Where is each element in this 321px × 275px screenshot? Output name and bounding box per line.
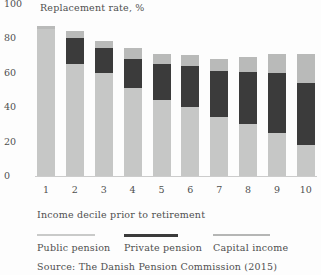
segment-public-pension bbox=[239, 124, 257, 176]
x-axis-tick-4: 4 bbox=[124, 184, 142, 195]
segment-public-pension bbox=[153, 100, 171, 176]
y-axis-tick-80: 80 bbox=[4, 32, 16, 43]
segment-public-pension bbox=[66, 64, 84, 176]
source-note: Source: The Danish Pension Commission (2… bbox=[37, 261, 277, 272]
segment-capital-income bbox=[66, 31, 84, 38]
segment-capital-income bbox=[181, 55, 199, 65]
legend-item-private-pension: Private pension bbox=[124, 234, 202, 253]
bar-decile-7 bbox=[210, 59, 228, 176]
y-axis-tick-40: 40 bbox=[4, 101, 16, 112]
x-axis-tick-9: 9 bbox=[268, 184, 286, 195]
legend-swatch-private-pension bbox=[124, 234, 178, 237]
segment-capital-income bbox=[210, 59, 228, 71]
segment-capital-income bbox=[268, 54, 286, 73]
segment-private-pension bbox=[124, 59, 142, 88]
segment-private-pension bbox=[181, 66, 199, 107]
y-axis-tick-20: 20 bbox=[4, 136, 16, 147]
x-axis-title: Income decile prior to retirement bbox=[37, 209, 205, 220]
x-axis-tick-7: 7 bbox=[210, 184, 228, 195]
x-axis-tick-8: 8 bbox=[239, 184, 257, 195]
segment-private-pension bbox=[268, 73, 286, 133]
segment-private-pension bbox=[153, 64, 171, 100]
segment-capital-income bbox=[297, 54, 315, 83]
segment-capital-income bbox=[95, 41, 113, 48]
y-axis-tick-100: 100 bbox=[4, 0, 22, 9]
segment-private-pension bbox=[210, 71, 228, 118]
x-axis-line bbox=[35, 176, 317, 177]
x-axis-tick-10: 10 bbox=[297, 184, 315, 195]
segment-public-pension bbox=[181, 107, 199, 176]
segment-private-pension bbox=[297, 83, 315, 145]
y-axis-tick-0: 0 bbox=[4, 170, 10, 181]
legend-label-capital-income: Capital income bbox=[213, 242, 288, 253]
segment-private-pension bbox=[239, 72, 257, 124]
legend-label-private-pension: Private pension bbox=[124, 242, 202, 253]
bar-group bbox=[37, 0, 315, 176]
bar-decile-10 bbox=[297, 54, 315, 176]
segment-public-pension bbox=[268, 133, 286, 176]
bar-decile-5 bbox=[153, 54, 171, 176]
bar-decile-9 bbox=[268, 54, 286, 176]
segment-capital-income bbox=[153, 54, 171, 64]
plot-area bbox=[37, 0, 315, 176]
bar-decile-8 bbox=[239, 57, 257, 176]
segment-private-pension bbox=[66, 38, 84, 64]
x-axis-tick-1: 1 bbox=[37, 184, 55, 195]
legend-item-capital-income: Capital income bbox=[213, 234, 288, 253]
x-axis-tick-6: 6 bbox=[181, 184, 199, 195]
segment-public-pension bbox=[297, 145, 315, 176]
x-axis-tick-2: 2 bbox=[66, 184, 84, 195]
segment-public-pension bbox=[95, 73, 113, 177]
segment-public-pension bbox=[124, 88, 142, 176]
y-axis-tick-60: 60 bbox=[4, 67, 16, 78]
segment-capital-income bbox=[124, 48, 142, 58]
x-axis-tick-labels: 12345678910 bbox=[37, 184, 315, 195]
segment-capital-income bbox=[239, 57, 257, 73]
legend-item-public-pension: Public pension bbox=[37, 234, 110, 253]
segment-private-pension bbox=[95, 48, 113, 72]
bar-decile-4 bbox=[124, 48, 142, 176]
segment-public-pension bbox=[37, 29, 55, 176]
bar-decile-1 bbox=[37, 26, 55, 176]
bar-decile-2 bbox=[66, 31, 84, 176]
pension-replacement-rate-figure: Replacement rate, % 020406080100 1234567… bbox=[0, 0, 321, 275]
legend-label-public-pension: Public pension bbox=[37, 242, 110, 253]
segment-public-pension bbox=[210, 117, 228, 176]
bar-decile-6 bbox=[181, 55, 199, 176]
legend-swatch-capital-income bbox=[213, 234, 270, 236]
legend-swatch-public-pension bbox=[37, 234, 95, 236]
x-axis-tick-3: 3 bbox=[95, 184, 113, 195]
bar-decile-3 bbox=[95, 41, 113, 176]
x-axis-tick-5: 5 bbox=[153, 184, 171, 195]
